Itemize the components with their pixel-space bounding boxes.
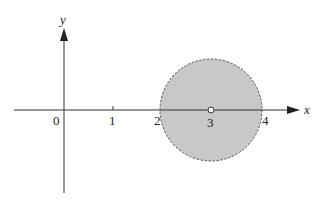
tick-label-2: 2 <box>154 113 161 128</box>
x-axis-label: x <box>303 102 310 117</box>
tick-label-4: 4 <box>262 113 269 128</box>
tick-label-3: 3 <box>207 115 214 130</box>
tick-label-1: 1 <box>109 113 116 128</box>
y-axis-arrow-icon <box>60 28 68 41</box>
center-open-point <box>208 107 214 113</box>
x-axis-arrow-icon <box>287 106 300 114</box>
y-axis-label: y <box>58 12 66 27</box>
figure-canvas: y x 0 1 2 3 4 <box>0 0 326 204</box>
origin-label: 0 <box>53 113 60 128</box>
coordinate-plane: y x 0 1 2 3 4 <box>0 0 326 204</box>
